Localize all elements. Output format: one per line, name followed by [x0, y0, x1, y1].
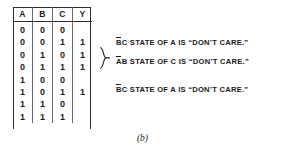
overline-variable: B	[116, 38, 122, 47]
cell-y: 1	[73, 61, 93, 73]
column-header-c: C	[53, 7, 73, 22]
cell-b: 1	[33, 49, 53, 61]
overline-variable: B	[116, 85, 122, 94]
cell-c: 1	[53, 61, 73, 73]
cell-y: 1	[73, 86, 93, 98]
cell-a: 1	[13, 74, 33, 86]
annotation-text: B STATE OF C IS “DON’T CARE.”	[122, 57, 249, 66]
cell-y: 1	[73, 36, 93, 48]
right-curly-brace-icon	[99, 47, 111, 69]
annotation-line: AB STATE OF C IS “DON’T CARE.”	[116, 57, 249, 66]
table-header: A B C Y	[13, 7, 92, 22]
cell-a: 0	[13, 49, 33, 61]
cell-y	[73, 74, 93, 86]
cell-c: 1	[53, 111, 73, 123]
figure-caption: (b)	[0, 133, 285, 143]
annotation-line: BC STATE OF A IS “DON’T CARE.”	[116, 38, 248, 47]
cell-b: 1	[33, 98, 53, 110]
cell-c: 1	[53, 86, 73, 98]
table-body: 0 0 0 0 0 1 1 0 1 0 1 0 1 1 1	[13, 22, 92, 124]
cell-c: 0	[53, 98, 73, 110]
table-row: 0 0 1 1	[13, 36, 92, 48]
cell-b: 0	[33, 22, 53, 37]
truth-table-figure: A B C Y 0 0 0 0 0 1 1 0 1 0	[0, 0, 285, 154]
cell-a: 0	[13, 61, 33, 73]
cell-a: 1	[13, 111, 33, 123]
table-row: 1 0 0	[13, 74, 92, 86]
cell-y	[73, 22, 93, 37]
table-header-row: A B C Y	[13, 7, 92, 22]
cell-b: 0	[33, 74, 53, 86]
cell-c: 0	[53, 74, 73, 86]
table-row: 1 1 1	[13, 111, 92, 123]
cell-y: 1	[73, 49, 93, 61]
annotation-text: C STATE OF A IS “DON’T CARE.”	[122, 38, 249, 47]
cell-a: 0	[13, 36, 33, 48]
overline-variable: A	[116, 57, 122, 66]
column-header-b: B	[33, 7, 53, 22]
cell-b: 1	[33, 111, 53, 123]
cell-a: 0	[13, 22, 33, 37]
cell-b: 0	[33, 36, 53, 48]
column-header-a: A	[13, 7, 33, 22]
cell-c: 1	[53, 36, 73, 48]
annotation-line: BC STATE OF A IS “DON’T CARE.”	[116, 85, 248, 94]
table-row: 1 0 1 1	[13, 86, 92, 98]
cell-b: 0	[33, 86, 53, 98]
cell-c: 0	[53, 49, 73, 61]
truth-table: A B C Y 0 0 0 0 0 1 1 0 1 0	[13, 7, 92, 123]
column-header-y: Y	[73, 7, 93, 22]
annotation-text: C STATE OF A IS “DON’T CARE.”	[122, 85, 249, 94]
table-row: 1 1 0	[13, 98, 92, 110]
table-row: 0 1 0 1	[13, 49, 92, 61]
cell-y	[73, 111, 93, 123]
grouping-brace	[99, 47, 111, 69]
cell-a: 1	[13, 98, 33, 110]
cell-b: 1	[33, 61, 53, 73]
cell-y	[73, 98, 93, 110]
table-row: 0 0 0	[13, 22, 92, 37]
table-row: 0 1 1 1	[13, 61, 92, 73]
cell-a: 1	[13, 86, 33, 98]
cell-c: 0	[53, 22, 73, 37]
